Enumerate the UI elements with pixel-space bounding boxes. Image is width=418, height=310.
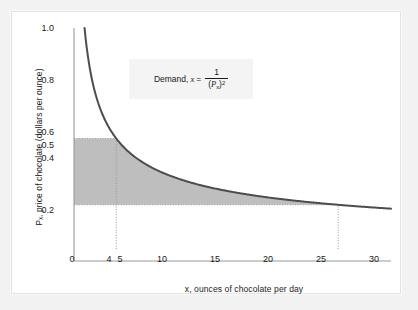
y-axis-title: Pₓ, price of chocolate (dollars per ounc… [34, 47, 44, 247]
equation-variable: x [190, 74, 194, 84]
x-tick-label: 10 [152, 254, 172, 264]
demand-curve-chart [12, 12, 400, 293]
chart-card: 1.0 0.8 0.6 0.5 0.4 0.2 0 4 5 10 15 20 2… [11, 11, 401, 294]
fraction-numerator: 1 [209, 68, 224, 78]
consumer-surplus-area [74, 139, 338, 205]
x-axis-title: x, ounces of chocolate per day [85, 284, 403, 294]
x-tick-label: 30 [364, 254, 384, 264]
equation-equals: = [196, 74, 201, 84]
figure-container: 1.0 0.8 0.6 0.5 0.4 0.2 0 4 5 10 15 20 2… [0, 0, 418, 310]
x-tick-label: 20 [258, 254, 278, 264]
x-tick-label: 15 [205, 254, 225, 264]
demand-equation-annotation: Demand, x = 1 (Px)2 [129, 59, 253, 99]
x-tick-label: 5 [110, 254, 130, 264]
y-tick-label: 1.0 [24, 23, 54, 33]
x-tick-label: 0 [62, 254, 82, 264]
x-tick-label: 25 [311, 254, 331, 264]
fraction-denominator: (Px)2 [205, 79, 228, 90]
equation-lead: Demand, [154, 74, 189, 84]
equation-fraction: 1 (Px)2 [205, 68, 228, 90]
